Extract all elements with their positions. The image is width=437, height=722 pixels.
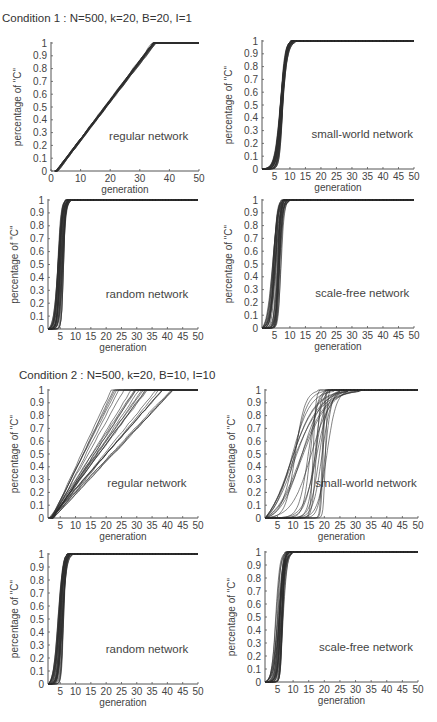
series-line <box>51 390 198 518</box>
chart-panel: 00.10.20.30.40.50.60.70.80.9151015202530… <box>226 385 424 543</box>
x-tick-label: 20 <box>315 171 327 182</box>
x-tick-label: 50 <box>408 330 420 341</box>
series-line <box>55 43 200 171</box>
x-tick-label: 50 <box>192 686 204 697</box>
y-tick-label: 0.1 <box>247 664 261 675</box>
series-line <box>265 552 418 682</box>
x-tick-label: 5 <box>272 330 278 341</box>
series-line <box>265 552 418 682</box>
x-tick-label: 50 <box>412 520 424 531</box>
series-line <box>48 200 198 329</box>
series-line <box>48 200 198 329</box>
series-line <box>48 200 198 329</box>
y-tick-label: 0.2 <box>247 487 261 498</box>
x-tick-label: 45 <box>397 684 409 695</box>
y-tick-label: 1 <box>255 547 261 558</box>
network-type-label: regular network <box>109 130 189 142</box>
y-tick-label: 0.3 <box>244 284 258 295</box>
series-line <box>262 200 414 328</box>
series-line <box>56 43 199 171</box>
y-tick-label: 0.8 <box>247 573 261 584</box>
network-type-label: small-world network <box>315 477 417 489</box>
x-tick-label: 10 <box>288 520 300 531</box>
series-line <box>48 200 198 329</box>
y-tick-label: 0.1 <box>30 666 44 677</box>
series-line <box>48 200 198 329</box>
y-tick-label: 0.4 <box>30 272 44 283</box>
x-tick-label: 50 <box>192 520 204 531</box>
x-tick-label: 10 <box>70 331 82 342</box>
series-line <box>48 554 198 684</box>
series-line <box>48 554 198 684</box>
chart-panel: 00.10.20.30.40.50.60.70.80.9151015202530… <box>9 549 204 709</box>
x-tick-label: 20 <box>315 330 327 341</box>
series-line <box>48 200 198 329</box>
series-line <box>262 200 414 328</box>
series-line <box>48 200 198 329</box>
x-tick-label: 5 <box>57 686 63 697</box>
series-line <box>50 390 198 518</box>
y-tick-label: 0.2 <box>33 140 47 151</box>
x-tick-label: 35 <box>362 171 374 182</box>
series-line <box>55 43 199 171</box>
x-tick-label: 25 <box>331 330 343 341</box>
series-line <box>265 552 418 682</box>
y-tick-label: 0.6 <box>30 436 44 447</box>
y-tick-label: 0.3 <box>33 127 47 138</box>
series-line <box>265 552 418 682</box>
series-line <box>265 390 418 518</box>
network-type-label: scale-free network <box>319 641 413 653</box>
x-tick-label: 15 <box>85 686 97 697</box>
series-line <box>56 43 199 171</box>
x-tick-label: 40 <box>162 520 174 531</box>
series-line <box>265 552 418 682</box>
y-tick-label: 0.7 <box>33 76 47 87</box>
series-line <box>55 43 199 171</box>
series-line <box>262 200 414 328</box>
x-tick-label: 20 <box>105 173 117 184</box>
x-tick-label: 30 <box>346 330 358 341</box>
y-tick-label: 0.7 <box>247 423 261 434</box>
y-tick-label: 0.7 <box>244 233 258 244</box>
x-tick-label: 40 <box>381 520 393 531</box>
series-line <box>265 552 418 682</box>
series-line <box>265 552 418 682</box>
series-line <box>48 554 198 684</box>
x-tick-label: 25 <box>334 520 346 531</box>
y-tick-label: 0.5 <box>30 449 44 460</box>
series-line <box>265 390 418 518</box>
figure-canvas: 00.10.20.30.40.50.60.70.80.9101020304050… <box>0 0 437 722</box>
y-tick-label: 0.7 <box>30 423 44 434</box>
series-line <box>262 200 414 328</box>
y-tick-label: 0.4 <box>30 627 44 638</box>
x-tick-label: 35 <box>147 520 159 531</box>
series-line <box>55 43 199 171</box>
y-tick-label: 0.2 <box>247 651 261 662</box>
series-line <box>48 554 198 684</box>
y-axis-label: percentage of "C" <box>9 579 20 658</box>
y-tick-label: 0.5 <box>247 449 261 460</box>
y-axis-label: percentage of "C" <box>12 67 23 146</box>
x-tick-label: 30 <box>134 173 146 184</box>
y-tick-label: 0.6 <box>30 601 44 612</box>
series-line <box>55 43 199 171</box>
y-tick-label: 1 <box>38 549 44 560</box>
series-line <box>48 554 198 684</box>
y-tick-label: 0.2 <box>244 138 258 149</box>
x-tick-label: 40 <box>164 173 176 184</box>
series-line <box>262 200 414 328</box>
series-line <box>52 390 199 518</box>
y-tick-label: 0.1 <box>30 500 44 511</box>
y-tick-label: 1 <box>38 195 44 206</box>
y-tick-label: 0.6 <box>33 89 47 100</box>
series-line <box>48 200 198 329</box>
series-line <box>265 390 418 518</box>
series-line <box>265 552 418 682</box>
series-line <box>48 200 198 329</box>
x-tick-label: 20 <box>101 520 113 531</box>
x-axis-label: generation <box>99 342 146 353</box>
series-line <box>48 554 198 684</box>
y-tick-label: 0.9 <box>30 562 44 573</box>
x-tick-label: 50 <box>412 684 424 695</box>
series-line <box>265 390 418 518</box>
